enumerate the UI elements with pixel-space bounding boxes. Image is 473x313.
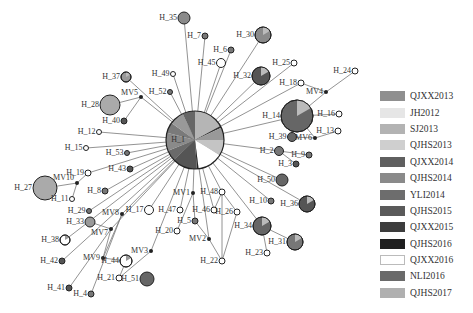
label-H_17: H_17 bbox=[126, 205, 144, 214]
label-H_13: H_13 bbox=[316, 126, 334, 135]
node-H_49 bbox=[171, 72, 176, 77]
label-MV5: MV5 bbox=[121, 88, 138, 97]
node-H_20 bbox=[174, 228, 180, 234]
label-H_53: H_53 bbox=[106, 148, 124, 157]
legend-swatch bbox=[380, 91, 405, 101]
label-H_36: H_36 bbox=[280, 199, 298, 208]
label-MV4: MV4 bbox=[306, 87, 323, 96]
label-MV10: MV10 bbox=[53, 173, 74, 182]
label-H_44: H_44 bbox=[101, 256, 119, 265]
median-vector-MV3 bbox=[149, 249, 153, 253]
label-MV6: MV6 bbox=[295, 133, 312, 142]
legend-item: QJHS2016 bbox=[380, 236, 453, 252]
label-H_40: H_40 bbox=[102, 116, 120, 125]
legend-swatch bbox=[380, 124, 405, 134]
label-H_43: H_43 bbox=[108, 164, 126, 173]
node-H_36 bbox=[299, 196, 315, 212]
node-H_53 bbox=[125, 151, 130, 156]
legend-swatch bbox=[380, 108, 405, 118]
node-H_11 bbox=[70, 197, 75, 202]
median-vector-MV1 bbox=[191, 191, 195, 195]
node-H_35 bbox=[178, 12, 190, 24]
node-H_19 bbox=[85, 170, 91, 176]
label-H_1: H_1 bbox=[171, 135, 185, 144]
legend-item: QJXX2016 bbox=[380, 252, 453, 268]
node-H_2 bbox=[275, 147, 284, 156]
label-H_42: H_42 bbox=[40, 256, 58, 265]
label-H_34: H_34 bbox=[234, 221, 252, 230]
legend-item: JH2012 bbox=[380, 104, 453, 120]
node-H_41 bbox=[66, 285, 72, 291]
median-vector-MV2 bbox=[207, 237, 211, 241]
node-H_18 bbox=[298, 80, 304, 86]
node-H_47 bbox=[177, 207, 183, 213]
label-H_16: H_16 bbox=[317, 109, 335, 118]
node-H_25 bbox=[291, 60, 297, 66]
legend-item: QJXX2014 bbox=[380, 154, 453, 170]
legend-label: QJHS2015 bbox=[410, 206, 452, 216]
legend-item: QJHS2014 bbox=[380, 170, 453, 186]
label-MV9: MV9 bbox=[83, 253, 100, 262]
label-H_23: H_23 bbox=[245, 248, 263, 257]
edge bbox=[222, 212, 237, 261]
node-H_26 bbox=[234, 209, 240, 215]
legend-label: JH2012 bbox=[410, 108, 440, 118]
node-H_51 bbox=[140, 272, 154, 286]
node-H_24 bbox=[352, 68, 358, 74]
legend-item: QJHS2013 bbox=[380, 137, 453, 153]
label-MV3: MV3 bbox=[131, 246, 148, 255]
node-H_17 bbox=[145, 206, 154, 215]
label-H_12: H_12 bbox=[78, 127, 96, 136]
label-H_18: H_18 bbox=[279, 78, 297, 87]
node-H_34 bbox=[253, 217, 271, 235]
legend-label: NLI2016 bbox=[410, 271, 445, 281]
label-H_6: H_6 bbox=[213, 45, 227, 54]
legend-item: QJHS2017 bbox=[380, 285, 453, 301]
node-H_15 bbox=[84, 146, 89, 151]
label-H_3: H_3 bbox=[278, 159, 292, 168]
node-H_5 bbox=[192, 218, 198, 224]
label-H_29: H_29 bbox=[68, 206, 86, 215]
label-H_31: H_31 bbox=[268, 237, 286, 246]
node-H_28 bbox=[100, 95, 120, 115]
node-H_38 bbox=[60, 235, 70, 245]
node-H_45 bbox=[217, 59, 226, 68]
node-H_43 bbox=[127, 166, 133, 172]
node-H_23 bbox=[264, 250, 270, 256]
label-H_48: H_48 bbox=[200, 187, 218, 196]
label-MV2: MV2 bbox=[189, 234, 206, 243]
legend-swatch bbox=[380, 239, 405, 249]
legend-swatch bbox=[380, 288, 405, 298]
median-vector-MV10 bbox=[75, 181, 79, 185]
label-H_47: H_47 bbox=[158, 205, 176, 214]
legend-item: QJHS2015 bbox=[380, 203, 453, 219]
label-MV7: MV7 bbox=[91, 228, 108, 237]
median-vector-MV8 bbox=[120, 212, 124, 216]
node-H_29 bbox=[87, 209, 92, 214]
label-H_49: H_49 bbox=[152, 69, 170, 78]
node-H_10 bbox=[268, 198, 274, 204]
legend-label: QJXX2014 bbox=[410, 157, 453, 167]
node-H_22 bbox=[219, 258, 225, 264]
node-H_6 bbox=[228, 47, 234, 53]
legend-item: QJXX2013 bbox=[380, 88, 453, 104]
node-H_30 bbox=[255, 27, 271, 43]
label-H_7: H_7 bbox=[187, 31, 201, 40]
node-H_31 bbox=[287, 234, 303, 250]
node-H_48 bbox=[219, 189, 225, 195]
node-H_3 bbox=[293, 161, 299, 167]
legend-swatch bbox=[380, 157, 405, 167]
label-H_22: H_22 bbox=[200, 256, 218, 265]
label-H_30: H_30 bbox=[236, 30, 254, 39]
label-H_28: H_28 bbox=[81, 100, 99, 109]
label-H_35: H_35 bbox=[159, 13, 177, 22]
label-H_32: H_32 bbox=[233, 71, 251, 80]
legend-swatch bbox=[380, 140, 405, 150]
node-H_12 bbox=[97, 130, 102, 135]
node-H_44 bbox=[120, 255, 132, 267]
label-H_26: H_26 bbox=[215, 207, 233, 216]
legend-swatch bbox=[380, 206, 405, 216]
legend-swatch bbox=[380, 255, 405, 265]
node-H_42 bbox=[59, 258, 65, 264]
label-H_45: H_45 bbox=[198, 58, 216, 67]
